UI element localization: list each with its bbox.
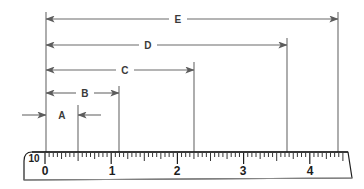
ruler-body <box>24 152 352 180</box>
extension-lines-group <box>46 12 338 152</box>
dimension-label-a: A <box>58 110 65 121</box>
ruler-scale-label: 10 <box>28 153 39 164</box>
ruler-number-1: 1 <box>109 164 116 178</box>
dimension-label-d: D <box>144 40 151 51</box>
dimension-label-c: C <box>121 65 128 76</box>
dimension-label-b: B <box>81 88 88 99</box>
dimension-label-e: E <box>175 14 182 25</box>
ruler-number-4: 4 <box>307 164 314 178</box>
diagram-artwork <box>0 0 364 189</box>
ruler-number-3: 3 <box>240 164 247 178</box>
dimension-lines-group <box>22 19 338 115</box>
ruler-number-2: 2 <box>174 164 181 178</box>
figure-canvas: ABCDE 0123410 <box>0 0 364 189</box>
ruler-graphic <box>24 152 352 180</box>
ruler-number-0: 0 <box>42 164 49 178</box>
